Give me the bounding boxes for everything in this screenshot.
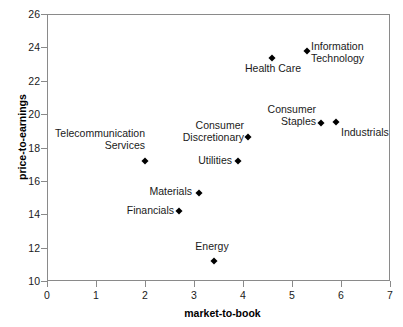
x-tick-mark [341, 281, 342, 287]
x-tick-mark [145, 281, 146, 287]
x-tick-mark [292, 281, 293, 287]
x-tick-label: 2 [135, 290, 155, 301]
data-point-label: Energy [186, 241, 238, 253]
x-tick-label: 3 [184, 290, 204, 301]
data-point-label: Financials [98, 205, 174, 217]
x-tick-label: 5 [282, 290, 302, 301]
data-point-label: Utilities [170, 155, 232, 167]
x-tick-label: 0 [37, 290, 57, 301]
x-tick-label: 4 [233, 290, 253, 301]
x-tick-mark [96, 281, 97, 287]
data-point-label: Consumer Staples [250, 104, 316, 127]
y-tick-label: 26 [18, 9, 40, 20]
x-tick-label: 7 [380, 290, 400, 301]
data-point-label: Information Technology [311, 41, 395, 64]
x-tick-label: 6 [331, 290, 351, 301]
y-tick-label: 24 [18, 42, 40, 53]
x-axis-title: market-to-book [0, 307, 403, 319]
x-tick-mark [243, 281, 244, 287]
x-tick-label: 1 [86, 290, 106, 301]
scatter-chart: 101214161820222426 01234567 Telecommunic… [0, 0, 403, 327]
data-point-label: Industrials [341, 127, 403, 139]
y-tick-mark [41, 81, 47, 82]
y-tick-mark [41, 14, 47, 15]
y-axis-title: price-to-earnings [16, 57, 28, 217]
y-tick-mark [41, 214, 47, 215]
x-tick-mark [390, 281, 391, 287]
data-point-label: Health Care [239, 63, 307, 75]
y-tick-mark [41, 47, 47, 48]
data-point-label: Materials [120, 186, 192, 198]
x-tick-mark [194, 281, 195, 287]
data-point-label: Telecommunication Services [35, 128, 145, 151]
y-tick-label: 10 [18, 276, 40, 287]
data-point-label: Consumer Discretionary [168, 120, 244, 143]
y-tick-mark [41, 181, 47, 182]
y-tick-label: 12 [18, 243, 40, 254]
y-tick-mark [41, 114, 47, 115]
y-tick-mark [41, 248, 47, 249]
x-tick-mark [47, 281, 48, 287]
